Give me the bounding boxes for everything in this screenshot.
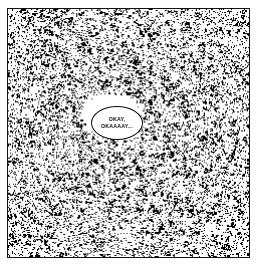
speech-bubble-line-2: OKAAAAY... xyxy=(101,123,133,130)
speech-bubble-line-1: OKAY, xyxy=(109,116,126,123)
speech-bubble: OKAY, OKAAAAY... xyxy=(91,106,143,140)
comic-page: OKAY, OKAAAAY... xyxy=(0,0,260,271)
comic-panel: OKAY, OKAAAAY... xyxy=(7,8,250,258)
